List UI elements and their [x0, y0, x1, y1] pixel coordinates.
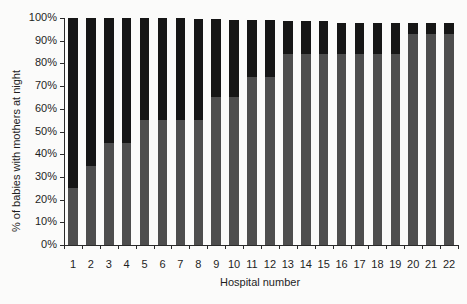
bar-segment-lower: [176, 120, 186, 245]
bar-hospital-22: [444, 23, 454, 245]
bar-segment-lower: [337, 54, 347, 245]
bar-hospital-21: [426, 23, 436, 245]
x-tick: [261, 245, 262, 249]
x-tick: [207, 245, 208, 249]
bar-hospital-13: [283, 21, 293, 245]
bar-segment-lower: [319, 54, 329, 245]
x-tick: [118, 245, 119, 249]
bar-segment-lower: [355, 54, 365, 245]
bar-hospital-15: [319, 21, 329, 245]
x-tick: [64, 245, 65, 249]
bar-segment-lower: [283, 54, 293, 245]
bar-segment-lower: [140, 120, 150, 245]
x-tick: [404, 245, 405, 249]
bar-hospital-4: [122, 18, 132, 245]
x-tick: [351, 245, 352, 249]
x-tick: [440, 245, 441, 249]
bar-segment-lower: [158, 120, 168, 245]
bar-segment-lower: [211, 97, 221, 245]
y-tick: [60, 86, 64, 87]
x-tick: [82, 245, 83, 249]
x-tick: [458, 245, 459, 249]
x-axis-title: Hospital number: [200, 276, 320, 288]
stacked-bar-chart: % of babies with mothers at night Hospit…: [0, 0, 467, 304]
y-axis-line: [64, 18, 65, 245]
y-tick: [60, 177, 64, 178]
y-tick-label: 90%: [17, 34, 57, 46]
x-tick: [386, 245, 387, 249]
y-tick-label: 70%: [17, 79, 57, 91]
bar-segment-lower: [247, 77, 257, 245]
bar-segment-lower: [391, 54, 401, 245]
bar-hospital-14: [301, 21, 311, 245]
bar-hospital-7: [176, 18, 186, 245]
x-tick: [297, 245, 298, 249]
x-tick: [315, 245, 316, 249]
bar-segment-lower: [373, 54, 383, 245]
bar-segment-lower: [444, 34, 454, 245]
y-tick: [60, 154, 64, 155]
y-tick: [60, 18, 64, 19]
bar-hospital-1: [68, 18, 78, 245]
y-tick-label: 20%: [17, 193, 57, 205]
bar-hospital-3: [104, 18, 114, 245]
bar-hospital-16: [337, 23, 347, 245]
y-tick-label: 30%: [17, 170, 57, 182]
x-tick: [189, 245, 190, 249]
bar-segment-lower: [86, 166, 96, 245]
x-tick: [422, 245, 423, 249]
x-tick: [279, 245, 280, 249]
bar-hospital-6: [158, 18, 168, 245]
y-tick: [60, 222, 64, 223]
bar-hospital-19: [391, 23, 401, 245]
y-tick: [60, 132, 64, 133]
x-tick: [333, 245, 334, 249]
y-tick-label: 50%: [17, 125, 57, 137]
x-tick: [136, 245, 137, 249]
x-tick: [154, 245, 155, 249]
bar-hospital-11: [247, 20, 257, 245]
y-tick-label: 100%: [17, 11, 57, 23]
bar-hospital-18: [373, 23, 383, 245]
y-tick-label: 10%: [17, 215, 57, 227]
y-tick: [60, 109, 64, 110]
bar-segment-lower: [265, 77, 275, 245]
x-tick: [100, 245, 101, 249]
bar-segment-lower: [426, 34, 436, 245]
y-tick-label: 80%: [17, 56, 57, 68]
x-tick: [368, 245, 369, 249]
bar-hospital-10: [229, 20, 239, 245]
x-tick: [171, 245, 172, 249]
bar-segment-lower: [301, 54, 311, 245]
bar-segment-lower: [68, 188, 78, 245]
bar-segment-lower: [122, 143, 132, 245]
bar-segment-lower: [229, 97, 239, 245]
bar-hospital-12: [265, 20, 275, 245]
y-tick-label: 60%: [17, 102, 57, 114]
bar-hospital-2: [86, 18, 96, 245]
bar-hospital-9: [211, 19, 221, 245]
bar-segment-lower: [408, 34, 418, 245]
x-tick-label: 22: [439, 258, 459, 270]
bar-hospital-8: [194, 19, 204, 245]
x-tick: [243, 245, 244, 249]
bar-hospital-17: [355, 23, 365, 245]
y-tick: [60, 63, 64, 64]
bar-segment-lower: [104, 143, 114, 245]
bar-hospital-20: [408, 23, 418, 245]
bar-hospital-5: [140, 18, 150, 245]
y-tick-label: 40%: [17, 147, 57, 159]
bar-segment-lower: [194, 120, 204, 245]
y-tick-label: 0%: [17, 238, 57, 250]
y-tick: [60, 41, 64, 42]
x-tick: [225, 245, 226, 249]
y-tick: [60, 200, 64, 201]
